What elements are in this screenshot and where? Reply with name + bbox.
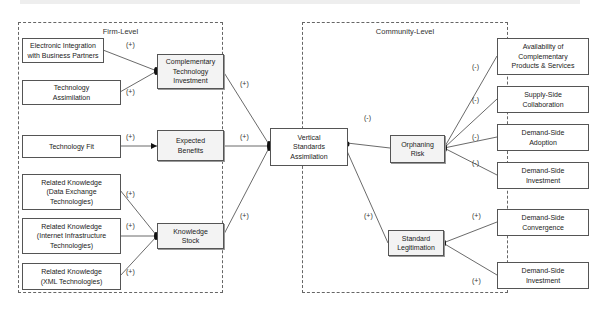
node-electronic-integration: Electronic Integration with Business Par… bbox=[22, 38, 104, 63]
sign-label: (+) bbox=[126, 88, 135, 95]
firm-level-title: Firm-Level bbox=[19, 27, 222, 36]
sign-label: (+) bbox=[126, 133, 135, 140]
sign-label: (-) bbox=[472, 159, 479, 166]
sign-label: (+) bbox=[126, 190, 135, 197]
node-vertical-standards-assimilation: Vertical Standards Assimilation bbox=[270, 128, 348, 166]
node-demand-side-convergence: Demand-Side Convergence bbox=[497, 209, 589, 236]
node-standard-legitimation: Standard Legitimation bbox=[388, 230, 444, 256]
sign-label: (-) bbox=[472, 63, 479, 70]
node-demand-side-adoption: Demand-Side Adoption bbox=[497, 124, 589, 151]
node-availability-complementary: Availability of Complementary Products &… bbox=[497, 38, 589, 75]
sign-label: (+) bbox=[240, 80, 249, 87]
sign-label: (-) bbox=[364, 114, 371, 121]
node-related-knowledge-data-exchange: Related Knowledge (Data Exchange Technol… bbox=[22, 174, 121, 210]
sign-label: (+) bbox=[126, 222, 135, 229]
node-demand-side-investment-2: Demand-Side Investment bbox=[497, 262, 589, 289]
sign-label: (+) bbox=[364, 212, 373, 219]
node-technology-fit: Technology Fit bbox=[22, 135, 121, 158]
node-demand-side-investment-1: Demand-Side Investment bbox=[497, 162, 589, 189]
node-related-knowledge-xml: Related Knowledge (XML Technologies) bbox=[22, 263, 121, 290]
node-related-knowledge-internet: Related Knowledge (Internet Infrastructu… bbox=[22, 218, 121, 254]
node-complementary-technology-investment: Complementary Technology Investment bbox=[157, 54, 224, 89]
sign-label: (+) bbox=[126, 41, 135, 48]
community-level-title: Community-Level bbox=[303, 27, 507, 36]
node-technology-assimilation: Technology Assimilation bbox=[22, 80, 121, 105]
node-supply-side-collaboration: Supply-Side Collaboration bbox=[497, 86, 589, 113]
sign-label: (+) bbox=[472, 212, 481, 219]
sign-label: (+) bbox=[472, 277, 481, 284]
sign-label: (+) bbox=[126, 268, 135, 275]
node-knowledge-stock: Knowledge Stock bbox=[157, 223, 224, 249]
node-orphaning-risk: Orphaning Risk bbox=[390, 135, 445, 163]
sign-label: (+) bbox=[240, 133, 249, 140]
sign-label: (-) bbox=[472, 96, 479, 103]
sign-label: (+) bbox=[240, 212, 249, 219]
sign-label: (-) bbox=[472, 133, 479, 140]
node-expected-benefits: Expected Benefits bbox=[157, 130, 224, 161]
